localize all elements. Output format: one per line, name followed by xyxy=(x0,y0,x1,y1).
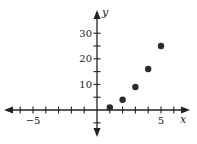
x-axis-label: x xyxy=(180,113,187,126)
y-tick-label: 30 xyxy=(79,28,92,39)
data-point xyxy=(158,43,164,49)
data-points xyxy=(107,43,165,111)
x-axis-left-arrow-icon xyxy=(4,107,13,114)
scatter-chart: 5−5102030 x y xyxy=(0,0,197,144)
y-axis-label: y xyxy=(101,6,109,19)
x-tick-label: −5 xyxy=(26,115,41,126)
x-tick-label: 5 xyxy=(158,115,164,126)
data-point xyxy=(145,66,151,72)
y-tick-label: 20 xyxy=(79,53,92,64)
tick-labels: 5−5102030 xyxy=(26,28,165,126)
data-point xyxy=(119,97,125,103)
data-point xyxy=(132,84,138,90)
y-axis-down-arrow-icon xyxy=(94,128,101,137)
y-axis-up-arrow-icon xyxy=(94,10,101,19)
data-point xyxy=(107,104,113,110)
y-tick-label: 10 xyxy=(79,79,92,90)
